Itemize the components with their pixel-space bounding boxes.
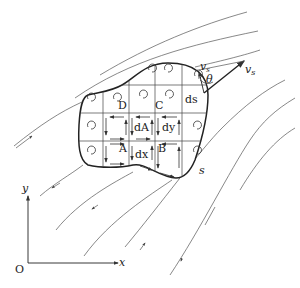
label-D: D (118, 99, 127, 112)
label-vs: vs (245, 63, 255, 77)
label-s: s (199, 164, 205, 177)
label-dy: dy (162, 121, 176, 134)
label-B: B (158, 142, 166, 155)
origin-label: O (15, 263, 24, 276)
y-axis-label: y (21, 182, 29, 195)
label-dA: dA (134, 121, 150, 134)
label-ds: ds (185, 93, 198, 106)
diagram-svg: D C A B dA dy dx ds s vs vs θ O x y (0, 0, 300, 288)
label-vs-prime: vs (200, 60, 210, 74)
flow-region (70, 60, 215, 180)
label-A: A (118, 142, 128, 155)
coordinate-axes: O x y (15, 182, 126, 276)
label-theta: θ (206, 73, 213, 86)
label-dx: dx (135, 148, 149, 161)
x-axis-label: x (119, 256, 126, 269)
label-C: C (155, 99, 163, 112)
diagram-canvas: D C A B dA dy dx ds s vs vs θ O x y (0, 0, 300, 288)
